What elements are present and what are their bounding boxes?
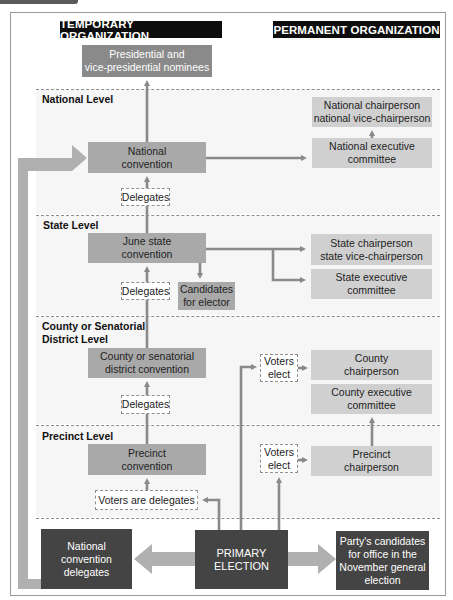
delegates-label: Delegates bbox=[121, 282, 170, 300]
state-exec-committee-box: State executive committee bbox=[311, 269, 432, 299]
county-convention-box: County or senatorial district convention bbox=[88, 348, 206, 378]
state-convention-box: June state convention bbox=[88, 233, 206, 263]
voters-are-delegates-label: Voters are delegates bbox=[95, 490, 198, 510]
delegates-label: Delegates bbox=[121, 395, 170, 414]
candidates-for-elector-box: Candidates for elector bbox=[178, 282, 235, 310]
precinct-chair-box: Precinct chairperson bbox=[311, 446, 432, 476]
national-convention-delegates-box: National convention delegates bbox=[41, 529, 132, 589]
primary-election-box: PRIMARY ELECTION bbox=[195, 530, 288, 589]
nominees-box: Presidential and vice-presidential nomin… bbox=[82, 45, 212, 77]
level-label-precinct: Precinct Level bbox=[42, 430, 113, 443]
voters-elect-label: Voters elect bbox=[260, 444, 298, 473]
level-label-county: County or Senatorial District Level bbox=[42, 320, 145, 346]
level-label-national: National Level bbox=[42, 93, 113, 106]
national-convention-box: National convention bbox=[88, 142, 206, 173]
header-temporary-organization: TEMPORARY ORGANIZATION bbox=[60, 21, 222, 38]
national-chair-box: National chairperson national vice-chair… bbox=[312, 97, 432, 127]
level-label-state: State Level bbox=[43, 219, 98, 232]
national-exec-committee-box: National executive committee bbox=[312, 138, 432, 168]
precinct-convention-box: Precinct convention bbox=[88, 444, 206, 475]
county-chair-box: County chairperson bbox=[311, 350, 432, 380]
state-chair-box: State chairperson state vice-chairperson bbox=[311, 234, 432, 265]
party-candidates-box: Party's candidates for office in the Nov… bbox=[336, 531, 429, 590]
delegates-label: Delegates bbox=[121, 188, 170, 206]
header-permanent-organization: PERMANENT ORGANIZATION bbox=[273, 21, 440, 38]
voters-elect-label: Voters elect bbox=[260, 354, 298, 382]
county-exec-committee-box: County executive committee bbox=[311, 384, 432, 414]
